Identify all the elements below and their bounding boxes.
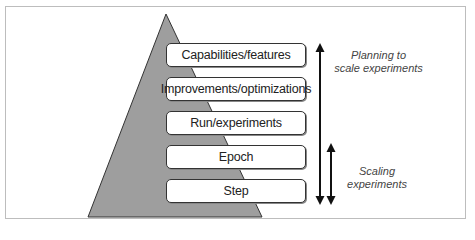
planning-annotation: Planning to scale experiments: [331, 49, 426, 75]
scaling-arrow-icon: [327, 143, 336, 205]
level-box-epoch: Epoch: [166, 145, 306, 169]
level-box-improvements: Improvements/optimizations: [166, 77, 306, 101]
level-label: Capabilities/features: [181, 48, 290, 62]
level-label: Improvements/optimizations: [161, 82, 311, 96]
scaling-line-2: experiments: [341, 178, 413, 191]
planning-line-1: Planning to: [331, 49, 426, 62]
planning-arrow-icon: [316, 43, 325, 205]
scaling-line-1: Scaling: [341, 165, 413, 178]
planning-line-2: scale experiments: [331, 62, 426, 75]
level-box-step: Step: [166, 179, 306, 203]
level-label: Step: [224, 184, 249, 198]
level-label: Epoch: [219, 150, 253, 164]
scaling-annotation: Scaling experiments: [341, 165, 413, 191]
level-box-run: Run/experiments: [166, 111, 306, 135]
level-box-capabilities: Capabilities/features: [166, 43, 306, 67]
level-label: Run/experiments: [190, 116, 282, 130]
